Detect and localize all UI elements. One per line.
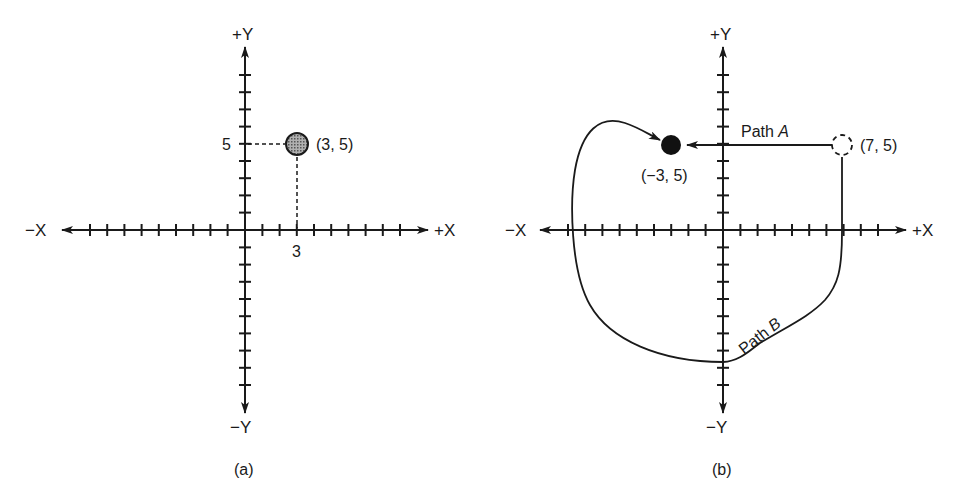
caption-b: (b) [712,461,732,478]
point-shaded-marker [286,133,308,155]
path-b-label: Path B [735,314,784,357]
neg-y-label: −Y [706,418,727,437]
x-tick-label-3: 3 [292,243,301,260]
neg-x-label: −X [505,221,526,240]
pos-y-label: +Y [710,25,731,44]
start-point-marker [832,135,852,155]
path-a-label: Path A [741,123,789,140]
pos-x-label: +X [912,221,933,240]
panel-b: (7, 5) (−3, 5) Path A Path B −X +X +Y −Y… [505,25,933,478]
panel-a: (3, 5) 5 3 −X +X +Y −Y (a) [25,25,455,478]
figure-canvas: (3, 5) 5 3 −X +X +Y −Y (a) [0,0,958,502]
point-label: (3, 5) [316,136,353,153]
pos-y-label: +Y [232,25,253,44]
start-point-label: (7, 5) [860,137,897,154]
end-point-label: (−3, 5) [641,167,688,184]
neg-y-label: −Y [230,418,251,437]
y-tick-label-5: 5 [222,136,231,153]
pos-x-label: +X [434,221,455,240]
neg-x-label: −X [25,221,46,240]
path-b-curve [572,121,842,362]
caption-a: (a) [234,461,254,478]
end-point-marker [661,135,681,155]
